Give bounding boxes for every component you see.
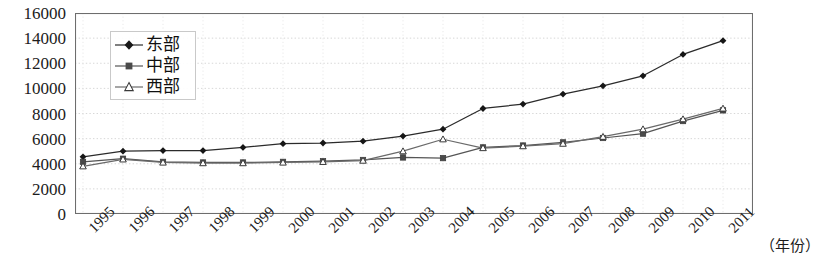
legend: 东部 中部 西部 <box>110 31 196 100</box>
y-axis-tick: 4000 <box>32 156 66 173</box>
y-axis-tick: 6000 <box>32 131 66 148</box>
x-axis: 1995199619971998199920002001200220032004… <box>75 216 753 274</box>
y-axis: 0200040006000800010000120001400016000 <box>0 0 66 274</box>
legend-marker-filled-diamond-icon <box>114 38 144 52</box>
y-axis-tick: 16000 <box>24 5 67 22</box>
y-axis-tick: 0 <box>58 206 67 223</box>
y-axis-tick: 12000 <box>24 55 67 72</box>
y-axis-tick: 8000 <box>32 106 66 123</box>
legend-item-central: 中部 <box>114 55 192 76</box>
line-chart: 0200040006000800010000120001400016000 东部… <box>0 0 820 274</box>
legend-label-west: 西部 <box>144 78 180 95</box>
legend-label-east: 东部 <box>144 36 180 53</box>
legend-marker-open-triangle-icon <box>114 80 144 94</box>
legend-label-central: 中部 <box>144 57 180 74</box>
legend-item-west: 西部 <box>114 76 192 97</box>
y-axis-tick: 2000 <box>32 181 66 198</box>
x-axis-title: （年份） <box>760 238 820 254</box>
y-axis-tick: 14000 <box>24 30 67 47</box>
y-axis-tick: 10000 <box>24 80 67 97</box>
legend-item-east: 东部 <box>114 34 192 55</box>
legend-marker-filled-square-icon <box>114 59 144 73</box>
